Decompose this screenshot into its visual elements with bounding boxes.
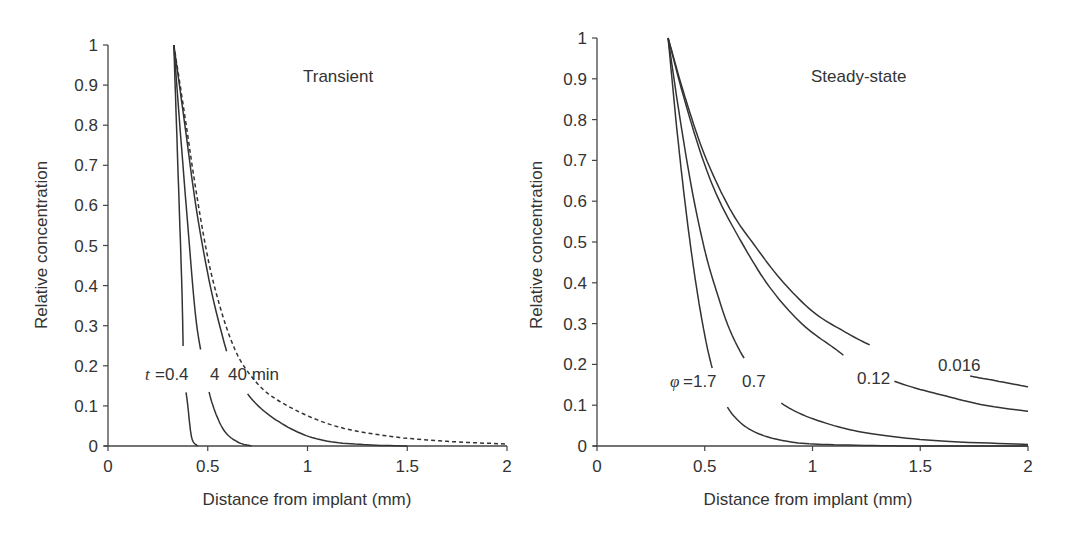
right-x-axis-title: Distance from implant (mm) bbox=[704, 490, 913, 509]
right-annotation-phi0016: 0.016 bbox=[938, 356, 981, 375]
right-y-tick-label: 0.9 bbox=[563, 70, 587, 89]
left-y-axis-title: Relative concentration bbox=[32, 161, 51, 329]
left-annotation-t40: 40 min bbox=[228, 365, 279, 384]
steady-state-panel: 00.10.20.30.40.50.60.70.80.9100.511.52 S… bbox=[527, 29, 1033, 509]
right-y-tick-label: 0.4 bbox=[563, 274, 587, 293]
right-y-tick-label: 1 bbox=[578, 29, 587, 48]
left-y-tick-label: 0.2 bbox=[74, 357, 98, 376]
right-x-tick-label: 0 bbox=[592, 457, 601, 476]
right-axes: 00.10.20.30.40.50.60.70.80.9100.511.52 bbox=[563, 29, 1032, 476]
left-y-tick-label: 0.7 bbox=[74, 156, 98, 175]
right-y-axis-title: Relative concentration bbox=[527, 161, 546, 329]
left-curve-2 bbox=[209, 392, 252, 446]
left-panel-title: Transient bbox=[303, 67, 374, 86]
left-y-tick-label: 0.9 bbox=[74, 76, 98, 95]
right-annotation-phi17: =1.7 bbox=[683, 372, 717, 391]
left-x-axis-title: Distance from implant (mm) bbox=[203, 490, 412, 509]
left-y-tick-label: 0.6 bbox=[74, 196, 98, 215]
left-curve-3 bbox=[248, 394, 408, 446]
right-y-tick-label: 0.7 bbox=[563, 151, 587, 170]
left-x-tick-label: 1 bbox=[303, 457, 312, 476]
right-curve-2 bbox=[668, 38, 744, 358]
right-curve-3 bbox=[894, 381, 1028, 411]
left-y-tick-label: 1 bbox=[89, 36, 98, 55]
left-x-tick-label: 2 bbox=[502, 457, 511, 476]
right-annotation-phi012: 0.12 bbox=[857, 369, 890, 388]
right-annotation-prefix: φ bbox=[670, 372, 679, 391]
right-y-tick-label: 0.2 bbox=[563, 355, 587, 374]
right-y-tick-label: 0.1 bbox=[563, 396, 587, 415]
right-curves bbox=[668, 38, 1028, 446]
left-y-tick-label: 0.8 bbox=[74, 116, 98, 135]
right-x-tick-label: 1.5 bbox=[908, 457, 932, 476]
right-annotation-phi07: 0.7 bbox=[742, 372, 766, 391]
right-curve-1 bbox=[727, 407, 1028, 446]
left-curve-1 bbox=[186, 392, 198, 446]
left-annotation-t04: =0.4 bbox=[155, 365, 189, 384]
figure: 00.10.20.30.40.50.60.70.80.9100.511.52 T… bbox=[0, 0, 1071, 536]
right-y-tick-label: 0.3 bbox=[563, 315, 587, 334]
left-y-tick-label: 0.5 bbox=[74, 237, 98, 256]
right-y-tick-label: 0 bbox=[578, 437, 587, 456]
transient-panel: 00.10.20.30.40.50.60.70.80.9100.511.52 T… bbox=[32, 36, 512, 509]
right-x-tick-label: 2 bbox=[1023, 457, 1032, 476]
left-axes: 00.10.20.30.40.50.60.70.80.9100.511.52 bbox=[74, 36, 511, 476]
left-x-tick-label: 0 bbox=[103, 457, 112, 476]
left-curve-4 bbox=[174, 45, 507, 444]
left-x-tick-label: 0.5 bbox=[196, 457, 220, 476]
right-y-tick-label: 0.8 bbox=[563, 111, 587, 130]
right-curve-4 bbox=[970, 376, 1028, 387]
right-y-tick-label: 0.5 bbox=[563, 233, 587, 252]
left-y-tick-label: 0 bbox=[89, 437, 98, 456]
right-panel-title: Steady-state bbox=[811, 67, 906, 86]
left-annotation-t4: 4 bbox=[210, 365, 219, 384]
left-y-tick-label: 0.1 bbox=[74, 397, 98, 416]
left-curve-1 bbox=[174, 45, 183, 346]
left-x-tick-label: 1.5 bbox=[395, 457, 419, 476]
left-annotation-prefix: t bbox=[145, 365, 151, 384]
right-x-tick-label: 0.5 bbox=[693, 457, 717, 476]
left-curves bbox=[174, 45, 507, 446]
left-curve-2 bbox=[174, 45, 201, 350]
right-x-tick-label: 1 bbox=[808, 457, 817, 476]
left-y-tick-label: 0.4 bbox=[74, 277, 98, 296]
right-curve-2 bbox=[781, 403, 1028, 444]
left-y-tick-label: 0.3 bbox=[74, 317, 98, 336]
right-y-tick-label: 0.6 bbox=[563, 192, 587, 211]
